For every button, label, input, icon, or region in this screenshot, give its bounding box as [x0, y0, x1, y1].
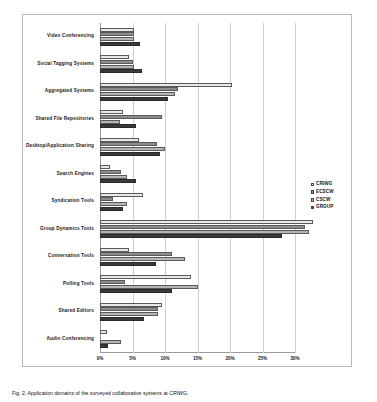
legend-swatch-icon — [311, 183, 314, 186]
bar-GROUP — [100, 152, 160, 156]
category-label: Syndication Tools — [51, 199, 94, 204]
bar-CSCW — [100, 37, 134, 41]
category-label: Group Dynamics Tools — [40, 227, 94, 232]
bar-CSCW — [100, 175, 127, 179]
figure-caption: Fig. 2. Application domains of the surve… — [12, 390, 368, 397]
chart-plot-area: 0%5%10%15%20%25%30%Video ConferencingSoc… — [100, 23, 295, 353]
bar-CSCW — [100, 340, 121, 344]
bar-CRIWG — [100, 55, 129, 59]
bar-group: Audio Conferencing — [100, 330, 295, 348]
bar-ECSCW — [100, 60, 133, 64]
bar-row — [100, 285, 295, 289]
legend-label: GROUP — [316, 205, 333, 210]
x-axis-tick-label: 20% — [225, 357, 234, 362]
bar-GROUP — [100, 207, 123, 211]
bar-row — [100, 193, 295, 197]
bar-CSCW — [100, 92, 175, 96]
bar-group: Conversation Tools — [100, 248, 295, 266]
bar-CSCW — [100, 230, 309, 234]
x-axis-tick-label: 30% — [290, 357, 299, 362]
bar-CSCW — [100, 312, 158, 316]
bar-row — [100, 335, 295, 339]
bar-row — [100, 37, 295, 41]
gridline-30 — [295, 23, 296, 353]
bar-row — [100, 97, 295, 101]
bar-CSCW — [100, 147, 165, 151]
bar-group: Desktop/Application Sharing — [100, 138, 295, 156]
bar-row — [100, 87, 295, 91]
bar-CRIWG — [100, 275, 191, 279]
bar-CRIWG — [100, 83, 232, 87]
bar-row — [100, 230, 295, 234]
category-label: Aggregated Systems — [45, 89, 94, 94]
figure-container: 0%5%10%15%20%25%30%Video ConferencingSoc… — [0, 0, 377, 402]
category-label: Conversation Tools — [48, 254, 94, 259]
bar-row — [100, 92, 295, 96]
bar-GROUP — [100, 262, 156, 266]
bar-GROUP — [100, 317, 144, 321]
bar-row — [100, 175, 295, 179]
bar-CRIWG — [100, 28, 134, 32]
bar-ECSCW — [100, 307, 158, 311]
bar-row — [100, 65, 295, 69]
bar-CSCW — [100, 65, 134, 69]
category-label: Shared File Repositories — [35, 117, 94, 122]
x-axis-tick-label: 10% — [160, 357, 169, 362]
bar-group: Shared File Repositories — [100, 110, 295, 128]
bar-group: Group Dynamics Tools — [100, 220, 295, 238]
bar-ECSCW — [100, 252, 172, 256]
bar-ECSCW — [100, 170, 121, 174]
bar-CRIWG — [100, 303, 162, 307]
bar-CSCW — [100, 257, 185, 261]
bar-row — [100, 147, 295, 151]
bar-CRIWG — [100, 330, 107, 334]
bar-GROUP — [100, 97, 168, 101]
bar-ECSCW — [100, 32, 134, 36]
bar-row — [100, 110, 295, 114]
bar-ECSCW — [100, 280, 125, 284]
category-label: Social Tagging Systems — [37, 62, 94, 67]
bar-row — [100, 138, 295, 142]
bar-row — [100, 55, 295, 59]
bar-GROUP — [100, 69, 142, 73]
bar-row — [100, 275, 295, 279]
bar-row — [100, 152, 295, 156]
bar-group: Social Tagging Systems — [100, 55, 295, 73]
category-label: Polling Tools — [63, 282, 94, 287]
legend-label: CSCW — [316, 198, 330, 203]
bar-GROUP — [100, 179, 136, 183]
legend-label: ECSCW — [316, 190, 334, 195]
bar-CRIWG — [100, 193, 143, 197]
bar-row — [100, 165, 295, 169]
bar-row — [100, 280, 295, 284]
x-axis-tick-label: 25% — [258, 357, 267, 362]
bar-row — [100, 257, 295, 261]
bar-CRIWG — [100, 248, 129, 252]
bar-row — [100, 202, 295, 206]
bar-GROUP — [100, 124, 136, 128]
bar-group: Video Conferencing — [100, 28, 295, 46]
bar-row — [100, 330, 295, 334]
bar-row — [100, 69, 295, 73]
category-label: Audio Conferencing — [47, 337, 95, 342]
legend-item: CSCW — [311, 198, 357, 203]
bar-GROUP — [100, 289, 172, 293]
category-label: Search Engines — [57, 172, 94, 177]
x-axis-tick-label: 5% — [129, 357, 136, 362]
bar-row — [100, 142, 295, 146]
x-axis-tick-label: 0% — [97, 357, 104, 362]
bar-row — [100, 124, 295, 128]
bar-group: Polling Tools — [100, 275, 295, 293]
legend-swatch-icon — [311, 206, 314, 209]
legend-item: GROUP — [311, 205, 357, 210]
bar-row — [100, 317, 295, 321]
bar-CRIWG — [100, 165, 110, 169]
bar-CSCW — [100, 202, 127, 206]
bar-row — [100, 312, 295, 316]
legend-swatch-icon — [311, 198, 314, 201]
bar-row — [100, 115, 295, 119]
category-label: Shared Editors — [59, 309, 94, 314]
bar-row — [100, 207, 295, 211]
bar-group: Search Engines — [100, 165, 295, 183]
bar-group: Aggregated Systems — [100, 83, 295, 101]
